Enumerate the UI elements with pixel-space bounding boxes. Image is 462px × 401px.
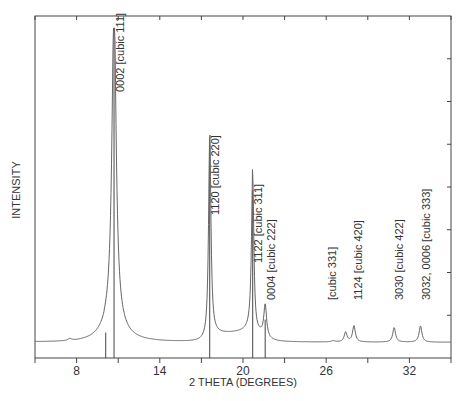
- x-tick-label: 32: [403, 364, 417, 378]
- peak-label: 1120 [cubic 220]: [209, 135, 221, 215]
- peak-label: 0004 [cubic 222]: [265, 219, 277, 300]
- peak-label: 3032, 0006 [cubic 333]: [420, 189, 432, 300]
- peak-label: 1122 [cubic 311]: [252, 184, 264, 263]
- plot-frame: [35, 16, 451, 358]
- peak-label: 3030 [cubic 422]: [393, 219, 405, 300]
- reference-lines: [106, 28, 265, 358]
- x-tick-label: 26: [320, 364, 334, 378]
- x-axis-title: 2 THETA (DEGREES): [189, 376, 297, 388]
- peak-label: [cubic 331]: [326, 247, 338, 300]
- y-axis-title: INTENSITY: [10, 161, 22, 219]
- x-tick-label: 8: [73, 364, 80, 378]
- peak-labels: 0002 [cubic 111]1120 [cubic 220]1122 [cu…: [114, 13, 432, 300]
- x-tick-label: 14: [153, 364, 167, 378]
- axis-ticks: [35, 16, 451, 363]
- peak-label: 0002 [cubic 111]: [114, 13, 126, 92]
- xrd-chart: 0002 [cubic 111]1120 [cubic 220]1122 [cu…: [0, 0, 462, 401]
- diffraction-curve: [35, 28, 451, 342]
- plot-border: [35, 16, 451, 358]
- peak-label: 1124 [cubic 420]: [352, 220, 364, 300]
